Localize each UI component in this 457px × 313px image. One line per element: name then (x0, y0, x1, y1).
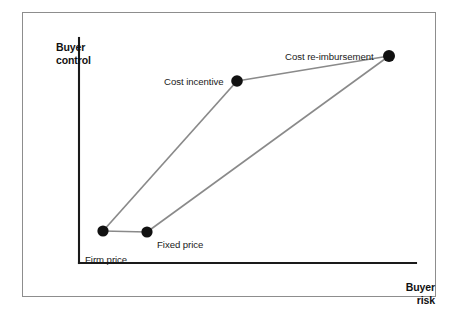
data-label-fixed-price: Fixed price (157, 239, 203, 250)
figure-root: Buyer control Buyer risk Firm price Fixe… (0, 0, 457, 313)
data-point-fixed-price[interactable] (141, 226, 152, 237)
y-axis-title: Buyer control (56, 41, 91, 66)
connector-firm-to-fixed (103, 231, 147, 232)
connector-firm-to-cost-incentive (103, 81, 237, 231)
figure-frame: Buyer control Buyer risk Firm price Fixe… (22, 12, 436, 297)
data-point-cost-incentive[interactable] (231, 75, 243, 87)
axis-lines (79, 38, 416, 263)
data-label-cost-incentive: Cost incentive (164, 76, 224, 87)
data-label-firm-price: Firm price (85, 254, 127, 265)
x-axis-title: Buyer risk (396, 281, 435, 306)
connector-lines (103, 56, 389, 232)
data-point-firm-price[interactable] (97, 225, 108, 236)
data-label-cost-reimbursement: Cost re-imbursement (285, 51, 374, 62)
data-point-markers (97, 50, 395, 238)
data-point-cost-reimbursement[interactable] (383, 50, 395, 62)
